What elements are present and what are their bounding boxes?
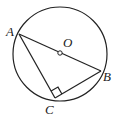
label-b: B: [103, 69, 111, 84]
label-o: O: [63, 35, 73, 50]
label-c: C: [45, 102, 54, 117]
segment-ac: [19, 34, 55, 98]
center-point-o: [58, 51, 62, 55]
geometry-diagram: A O B C: [0, 0, 118, 122]
label-a: A: [5, 24, 14, 39]
